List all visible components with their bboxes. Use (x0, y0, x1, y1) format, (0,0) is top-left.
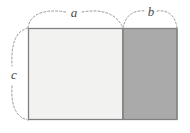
geometry-figure: a b c (0, 0, 190, 133)
brace-c-arc-bottom (12, 86, 28, 120)
dimension-label-a: a (71, 5, 78, 20)
brace-a-arc-right (82, 11, 123, 28)
brace-c-arc-top (12, 28, 28, 66)
brace-b-arc-left (123, 11, 145, 28)
figure-canvas: a b c (0, 0, 190, 133)
brace-b-arc-right (157, 11, 177, 28)
brace-a-arc (28, 11, 66, 28)
dimension-label-b: b (148, 4, 155, 19)
dimension-label-c: c (11, 67, 17, 82)
left-region-rect (29, 29, 124, 120)
right-region-rect (123, 29, 177, 120)
